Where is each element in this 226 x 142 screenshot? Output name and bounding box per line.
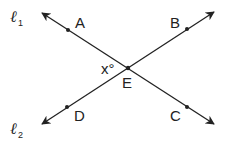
point-c-dot	[185, 105, 189, 109]
point-b-label: B	[170, 14, 180, 31]
line-l2-subscript: 2	[18, 130, 23, 140]
intersecting-lines-diagram: A B C D E x° ℓ 1 ℓ 2	[0, 0, 226, 142]
line-l1-label: ℓ	[10, 8, 17, 25]
point-e-dot	[126, 66, 130, 70]
point-b-dot	[185, 27, 189, 31]
point-e-label: E	[122, 74, 132, 91]
line-l2-label: ℓ	[10, 120, 17, 137]
point-c-label: C	[170, 107, 181, 124]
line-l1-subscript: 1	[18, 18, 23, 28]
point-d-dot	[65, 105, 69, 109]
point-d-label: D	[74, 107, 85, 124]
point-a-label: A	[75, 14, 85, 31]
angle-x-label: x°	[101, 60, 115, 77]
point-a-dot	[66, 28, 70, 32]
